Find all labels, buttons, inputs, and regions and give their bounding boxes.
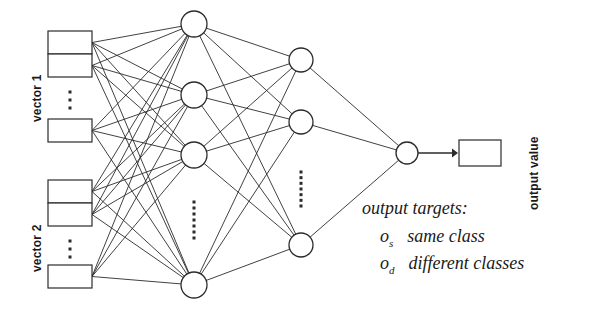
hidden1-ellipsis-dot-4 — [193, 225, 196, 228]
hidden2-ellipsis-dot-3 — [300, 188, 303, 191]
input-ellipsis-vector1-dot-2 — [69, 107, 72, 110]
edge-hidden2-1-output — [313, 125, 397, 150]
output-value-label: output value — [527, 136, 541, 210]
input-ellipsis-vector2-dot-1 — [69, 248, 72, 251]
input-ellipsis-vector2-dot-0 — [69, 240, 72, 243]
input-group-label-vector-1: vector 1 — [30, 74, 44, 122]
ellipsis-group — [69, 91, 303, 259]
input-box-2[interactable] — [48, 119, 92, 142]
edge-input-4-hidden1-0 — [92, 35, 188, 214]
hidden1-ellipsis-dot-2 — [193, 213, 196, 216]
edge-hidden2-0-output — [310, 68, 399, 146]
input-ellipsis-vector2-dot-2 — [69, 256, 72, 259]
edge-input-0-hidden1-2 — [92, 43, 185, 146]
annotation-symbol-os: o — [380, 226, 389, 246]
hidden2-ellipsis-dot-6 — [300, 205, 303, 208]
edge-group — [92, 26, 399, 284]
annotation-title: output targets: — [362, 198, 468, 219]
input-ellipsis-vector1-dot-0 — [69, 91, 72, 94]
hidden2-ellipsis-dot-1 — [300, 176, 303, 179]
output-node[interactable] — [396, 142, 418, 164]
edge-hidden1-2-hidden2-2 — [204, 163, 292, 237]
edge-input-3-hidden1-1 — [92, 104, 185, 192]
edge-input-3-hidden1-2 — [92, 159, 182, 191]
hidden1-ellipsis-dot-1 — [193, 207, 196, 210]
edge-hidden1-0-hidden2-0 — [206, 28, 289, 56]
edge-input-1-hidden1-3 — [92, 66, 189, 274]
hidden2-ellipsis-dot-2 — [300, 182, 303, 185]
output-arrow-head — [452, 149, 458, 158]
hidden1-ellipsis-dot-3 — [193, 219, 196, 222]
annotation-symbol-od: o — [380, 253, 389, 273]
hidden1-ellipsis-dot-0 — [193, 201, 196, 204]
annotation-subscript-d: d — [389, 264, 395, 276]
output-box[interactable] — [459, 140, 501, 166]
edge-input-4-hidden1-3 — [92, 215, 183, 278]
annotation-text-same-class: same class — [407, 226, 485, 246]
edge-input-1-hidden1-2 — [92, 66, 184, 147]
input-ellipsis-vector1-dot-1 — [69, 99, 72, 102]
edge-hidden1-1-hidden2-0 — [206, 64, 289, 91]
edge-input-5-hidden1-3 — [92, 277, 181, 284]
edge-input-2-hidden1-3 — [92, 131, 187, 275]
hidden2-ellipsis-dot-0 — [300, 171, 303, 174]
edge-hidden1-1-hidden2-1 — [207, 98, 290, 119]
hidden1-ellipsis-dot-6 — [193, 237, 196, 240]
hidden2-ellipsis-dot-4 — [300, 193, 303, 196]
output-group — [418, 140, 501, 166]
hidden2-ellipsis-dot-5 — [300, 199, 303, 202]
input-box-0[interactable] — [48, 31, 92, 54]
hidden1-node-0[interactable] — [181, 11, 207, 37]
hidden1-node-3[interactable] — [181, 272, 207, 298]
input-box-1[interactable] — [48, 54, 92, 77]
hidden1-ellipsis-dot-5 — [193, 231, 196, 234]
edge-hidden1-1-hidden2-2 — [202, 106, 294, 236]
annotation-text-different-classes: different classes — [409, 253, 525, 273]
edge-hidden1-0-hidden2-2 — [200, 36, 296, 234]
hidden1-node-2[interactable] — [181, 142, 207, 168]
edge-input-5-hidden1-1 — [92, 106, 188, 276]
hidden2-node-0[interactable] — [289, 48, 313, 72]
edge-hidden1-3-hidden2-2 — [206, 249, 290, 280]
network-diagram: vector 1 vector 2 output value output ta… — [0, 0, 606, 313]
hidden1-node-1[interactable] — [181, 82, 207, 108]
input-box-4[interactable] — [48, 203, 92, 226]
edge-hidden1-0-hidden2-1 — [204, 33, 293, 114]
hidden2-node-2[interactable] — [289, 233, 313, 257]
input-box-5[interactable] — [48, 265, 92, 288]
annotation-row-same-class: ossame class — [380, 226, 485, 249]
edge-input-5-hidden1-2 — [92, 165, 186, 277]
edge-input-5-hidden1-0 — [92, 36, 189, 276]
input-box-3[interactable] — [48, 180, 92, 203]
annotation-row-different-classes: oddifferent classes — [380, 253, 524, 276]
annotation-subscript-s: s — [389, 237, 393, 249]
input-group-label-vector-2: vector 2 — [30, 224, 44, 272]
hidden2-node-1[interactable] — [289, 110, 313, 134]
